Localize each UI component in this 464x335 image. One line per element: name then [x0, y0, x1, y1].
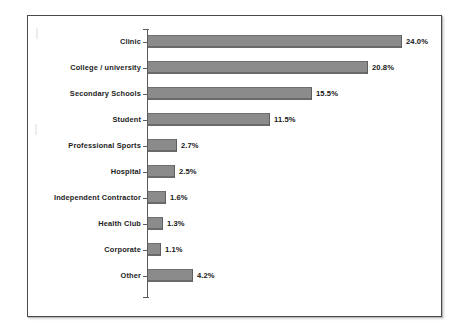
value-label: 20.8%	[372, 64, 394, 72]
bar-row: Other 4.2%	[28, 263, 443, 289]
bar	[148, 217, 163, 230]
value-label: 1.3%	[167, 220, 185, 228]
category-label: Other	[28, 272, 141, 279]
plot-area: Clinic 24.0% College / university 20.8% …	[28, 16, 443, 318]
bar	[148, 165, 175, 178]
value-label: 11.5%	[274, 116, 296, 124]
category-label: College / university	[28, 64, 141, 71]
bar	[148, 87, 312, 100]
bar-row: Independent Contractor 1.6%	[28, 185, 443, 211]
bar-row: Student 11.5%	[28, 107, 443, 133]
category-label: Secondary Schools	[28, 90, 141, 97]
category-label: Hospital	[28, 168, 141, 175]
chart-frame: Clinic 24.0% College / university 20.8% …	[27, 15, 442, 317]
bar	[148, 35, 402, 48]
bar-row: Hospital 2.5%	[28, 159, 443, 185]
axis-cap-bottom	[143, 297, 149, 298]
category-label: Student	[28, 116, 141, 123]
bar	[148, 139, 177, 152]
category-label: Clinic	[28, 38, 141, 45]
bar	[148, 243, 161, 256]
value-label: 24.0%	[406, 38, 428, 46]
bar-row: Corporate 1.1%	[28, 237, 443, 263]
category-label: Corporate	[28, 246, 141, 253]
bar	[148, 113, 270, 126]
bar-row: Professional Sports 2.7%	[28, 133, 443, 159]
bar	[148, 269, 193, 282]
category-label: Health Club	[28, 220, 141, 227]
value-label: 2.7%	[181, 142, 199, 150]
bar	[148, 191, 166, 204]
bar-row: Clinic 24.0%	[28, 29, 443, 55]
value-label: 4.2%	[197, 272, 215, 280]
bar-row: Health Club 1.3%	[28, 211, 443, 237]
bar-row: Secondary Schools 15.5%	[28, 81, 443, 107]
bar	[148, 61, 368, 74]
category-label: Professional Sports	[28, 142, 141, 149]
value-label: 1.6%	[170, 194, 188, 202]
value-label: 2.5%	[179, 168, 197, 176]
bar-row: College / university 20.8%	[28, 55, 443, 81]
category-label: Independent Contractor	[28, 194, 141, 201]
value-label: 1.1%	[165, 246, 183, 254]
value-label: 15.5%	[316, 90, 338, 98]
